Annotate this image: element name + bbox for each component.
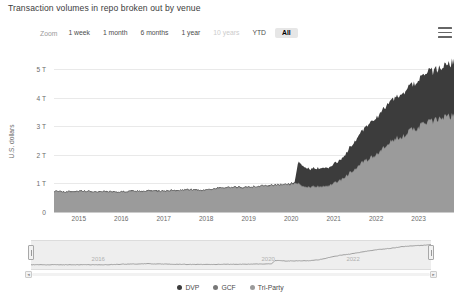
plot-area: U.S. dollars 01 T2 T3 T4 T5 T 2015201620… [0,52,461,224]
navigator-left-handle[interactable] [28,245,34,260]
x-axis-tick-2015: 2015 [72,215,86,222]
menu-line-2 [438,32,452,34]
x-axis-tick-2019: 2019 [241,215,255,222]
y-axis-tick-5: 5 T [37,66,46,73]
area-series-group [54,52,454,212]
legend-label-dvp: DVP [185,284,199,291]
navigator-tick-2022: 2022 [346,256,359,262]
x-axis-tick-2023: 2023 [411,215,425,222]
range-button-1-week[interactable]: 1 week [64,28,94,38]
stock-chart: Transaction volumes in repo broken out b… [0,0,461,304]
page-title: Transaction volumes in repo broken out b… [8,3,201,13]
x-axis-tick-2021: 2021 [326,215,340,222]
plot-inner [54,52,454,212]
x-axis-tick-2020: 2020 [284,215,298,222]
x-axis-tick-2016: 2016 [114,215,128,222]
range-selector-label: Zoom [40,30,57,37]
navigator-tick-2020: 2020 [261,256,274,262]
x-axis-labels: 201520162017201820192020202120222023 [54,215,454,229]
menu-line-3 [438,36,452,38]
navigator-scroll-left-button[interactable]: ◄ [25,271,32,278]
y-axis-tick-4: 4 T [37,94,46,101]
hamburger-menu-icon[interactable] [438,26,452,38]
x-axis-line [54,212,454,213]
navigator-scroll-track[interactable] [32,273,430,276]
range-button-10-years: 10 years [209,28,243,38]
legend-dot-gcf [213,285,218,290]
range-selector: Zoom 1 week 1 month 6 months 1 year 10 y… [40,26,303,40]
range-button-1-year[interactable]: 1 year [177,28,204,38]
handle-grip-left [31,250,32,256]
x-axis-tick-2017: 2017 [157,215,171,222]
range-button-6-months[interactable]: 6 months [136,28,172,38]
legend-item-triparty[interactable]: Tri-Party [250,284,284,291]
legend-label-gcf: GCF [221,284,235,291]
y-axis-tick-3: 3 T [37,123,46,130]
x-axis-tick-2022: 2022 [369,215,383,222]
navigator-right-handle[interactable] [428,245,434,260]
legend-label-triparty: Tri-Party [258,284,284,291]
y-axis-labels: 01 T2 T3 T4 T5 T [0,52,52,224]
x-axis-tick-2018: 2018 [199,215,213,222]
y-axis-tick-2: 2 T [37,151,46,158]
legend-item-gcf[interactable]: GCF [213,284,235,291]
handle-grip-right [431,250,432,256]
menu-line-1 [438,27,452,29]
navigator-series [31,240,431,270]
y-axis-tick-1: 1 T [37,180,46,187]
legend: DVP GCF Tri-Party [0,284,461,291]
navigator[interactable]: 201620202022 ◄ ► [31,240,431,270]
y-axis-tick-0: 0 [42,209,46,216]
navigator-scrollbar[interactable]: ◄ ► [25,271,437,278]
navigator-tick-2016: 2016 [92,256,105,262]
legend-dot-dvp [177,285,182,290]
legend-dot-triparty [250,285,255,290]
navigator-scroll-right-button[interactable]: ► [430,271,437,278]
range-button-all[interactable]: All [275,28,298,38]
range-button-ytd[interactable]: YTD [248,28,270,38]
legend-item-dvp[interactable]: DVP [177,284,199,291]
range-button-1-month[interactable]: 1 month [99,28,132,38]
